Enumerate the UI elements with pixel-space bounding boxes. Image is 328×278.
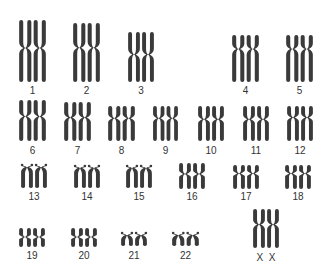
chromosome-label: 10 [191,146,231,156]
chromosome-label: 16 [172,192,212,202]
chromosome-label: 21 [114,251,154,261]
chromosome-pair-16 [178,163,206,189]
chromosome-icon [232,165,260,189]
chromosome-icon [285,35,314,82]
chromosome-pair-15 [125,164,153,189]
chromosome-pair-1 [18,20,47,82]
chromosome-icon [171,231,200,247]
chromosome-pair-19 [18,228,46,247]
chromosome-label: 12 [280,146,320,156]
chromosome-label: 5 [279,86,320,96]
chromosome-label: 19 [12,251,52,261]
chromosome-pair-8 [107,106,136,141]
chromosome-icon [18,20,47,82]
chromosome-icon [178,163,206,189]
chromosome-label: 2 [66,86,107,96]
chromosome-label: 11 [236,146,276,156]
chromosome-icon [252,209,280,248]
chromosome-icon [73,164,101,189]
chromosome-label: X X [246,253,286,263]
chromosome-icon [107,106,136,141]
chromosome-label: 7 [57,146,98,156]
chromosome-icon [286,106,314,141]
chromosome-pair-11 [242,106,270,141]
chromosome-pair-2 [72,23,101,82]
chromosome-label: 4 [225,86,266,96]
chromosome-pair-xx [252,209,280,248]
chromosome-pair-13 [20,163,48,189]
chromosome-label: 20 [64,251,104,261]
chromosome-label: 17 [226,192,266,202]
chromosome-icon [120,231,148,247]
chromosome-label: 9 [146,146,185,156]
chromosome-icon [231,35,260,82]
chromosome-label: 18 [278,192,318,202]
chromosome-icon [127,32,155,82]
chromosome-pair-6 [18,100,47,141]
chromosome-icon [63,102,92,141]
chromosome-icon [20,163,48,189]
chromosome-pair-4 [231,35,260,82]
chromosome-pair-12 [286,106,314,141]
chromosome-label: 1 [12,86,53,96]
chromosome-label: 6 [12,146,53,156]
chromosome-pair-10 [197,106,225,141]
chromosome-icon [284,165,312,189]
chromosome-pair-9 [152,106,179,141]
chromosome-icon [18,100,47,141]
chromosome-icon [197,106,225,141]
chromosome-icon [70,228,98,247]
chromosome-label: 22 [165,251,206,261]
chromosome-label: 3 [121,86,161,96]
chromosome-icon [72,23,101,82]
chromosome-icon [152,106,179,141]
chromosome-icon [125,164,153,189]
chromosome-pair-22 [171,231,200,247]
chromosome-pair-17 [232,165,260,189]
chromosome-icon [18,228,46,247]
karyotype-diagram: 12345678910111213141516171819202122X X [0,0,328,278]
chromosome-label: 8 [101,146,142,156]
chromosome-pair-21 [120,231,148,247]
chromosome-icon [242,106,270,141]
chromosome-pair-7 [63,102,92,141]
chromosome-pair-3 [127,32,155,82]
chromosome-pair-5 [285,35,314,82]
chromosome-pair-20 [70,228,98,247]
chromosome-label: 14 [67,192,107,202]
chromosome-label: 13 [14,192,54,202]
chromosome-label: 15 [119,192,159,202]
chromosome-pair-18 [284,165,312,189]
chromosome-pair-14 [73,164,101,189]
